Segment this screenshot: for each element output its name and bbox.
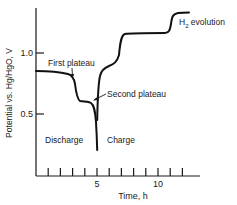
chart: 1.0 0.5 5 10 Time, h Potential vs. Hg/Hg…	[0, 0, 237, 205]
x-tick-label-10: 10	[153, 179, 163, 189]
h2-label-rest: evolution	[188, 17, 225, 27]
annotation-h2-evolution: H2 evolution	[179, 17, 225, 29]
charge-curve	[97, 13, 189, 121]
y-tick-label-0-5: 0.5	[20, 109, 33, 119]
y-axis-label: Potential vs. Hg/HgO, V	[4, 48, 14, 138]
region-label-discharge: Discharge	[45, 135, 84, 145]
annotation-first-plateau: First plateau	[48, 58, 95, 68]
y-tick-label-1-0: 1.0	[20, 48, 33, 58]
annotation-second-plateau: Second plateau	[107, 89, 166, 99]
x-ticks	[48, 168, 182, 176]
x-axis-label: Time, h	[118, 191, 148, 201]
x-tick-label-5: 5	[94, 179, 99, 189]
region-label-charge: Charge	[107, 135, 135, 145]
